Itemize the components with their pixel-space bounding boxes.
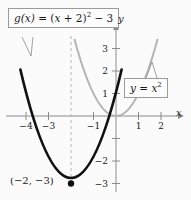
g-label-variable: x: [54, 12, 60, 24]
y-tick-label-3: 3: [94, 44, 108, 53]
y-label-exponent: 2: [157, 81, 161, 89]
callout-y-equals-x-squared: y = x2: [124, 78, 168, 98]
g-label-leader-line-1: [22, 37, 31, 56]
g-label-plus-two: + 2: [64, 12, 83, 24]
y-label-lhs: y: [130, 82, 136, 94]
callout-g-of-x: g(x) = (x + 2)2 − 3: [8, 8, 119, 28]
y-tick-label-2: 2: [94, 67, 108, 76]
x-axis-label: x: [176, 108, 182, 118]
x-tick-label-1: 1: [136, 122, 142, 131]
x-tick-label--3: −3: [42, 122, 55, 131]
vertex-point-marker: [68, 180, 74, 186]
g-label-function-name: g(x): [14, 12, 35, 24]
y-label-equals: =: [139, 82, 148, 94]
plot-canvas: [0, 0, 191, 200]
g-label-minus-three: − 3: [94, 12, 113, 24]
graph-figure: g(x) = (x + 2)2 − 3 y = x2 y x −4 −3 −1 …: [0, 0, 191, 200]
x-tick-label-2: 2: [158, 122, 164, 131]
y-tick-label-1: 1: [94, 89, 108, 98]
vertex-coordinate-label: (−2, −3): [10, 176, 54, 186]
y-axis-label: y: [118, 14, 124, 24]
g-label-equals: =: [38, 12, 47, 24]
callout-leader-lines: [22, 37, 157, 78]
x-tick-label--1: −1: [87, 122, 100, 131]
y-label-leader-line-2: [152, 62, 157, 78]
g-label-exponent: 2: [87, 11, 91, 19]
y-tick-label--3: −3: [90, 179, 108, 188]
x-tick-label--4: −4: [19, 122, 32, 131]
y-tick-label--2: −2: [90, 157, 108, 166]
g-label-leader-line-2: [31, 37, 33, 56]
